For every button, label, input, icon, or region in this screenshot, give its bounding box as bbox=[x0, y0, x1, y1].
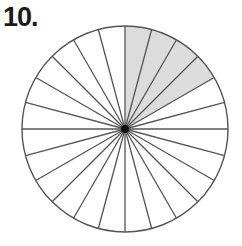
sector-divider bbox=[98, 30, 125, 129]
sector-divider bbox=[125, 129, 152, 228]
fraction-circle-diagram bbox=[0, 0, 242, 246]
sector-divider bbox=[98, 129, 125, 228]
center-point bbox=[121, 125, 129, 133]
sector-divider bbox=[26, 102, 125, 129]
sector-divider bbox=[125, 129, 224, 156]
sector-divider bbox=[26, 129, 125, 156]
